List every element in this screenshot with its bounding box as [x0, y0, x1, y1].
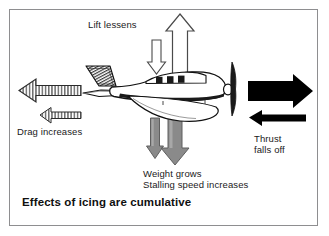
cabin-window [156, 77, 163, 83]
lift-label: Lift lessens [88, 19, 137, 30]
weight-increased-arrow [161, 115, 189, 165]
drag-increased-arrow [19, 79, 81, 102]
weight-nominal-arrow [147, 118, 164, 159]
thrust-reduced-arrow [249, 110, 306, 126]
lift-reduced-arrow [148, 40, 166, 74]
thrust-label: Thrust falls off [254, 133, 285, 155]
lift-nominal-arrow [166, 14, 194, 74]
thrust-nominal-arrow [248, 74, 313, 108]
weight-label: Weight grows Stalling speed increases [143, 168, 248, 190]
drag-label: Drag increases [17, 126, 82, 137]
icing-effects-figure: Lift lessens Drag increases Thrust falls… [0, 0, 329, 236]
figure-caption: Effects of icing are cumulative [22, 196, 191, 208]
cabin-window [167, 76, 174, 83]
drag-nominal-arrow [40, 108, 81, 124]
cabin-window [178, 76, 185, 83]
